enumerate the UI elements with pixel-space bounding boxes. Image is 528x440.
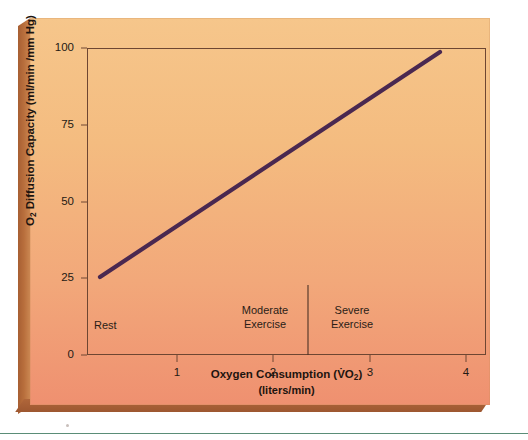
x-axis-title-units: (liters/min): [87, 383, 486, 398]
chart-card: 100 75 50 25 0 1 2 3 4 O2 Diffusion Capa…: [30, 18, 490, 405]
zone-label-moderate-exercise: Moderate Exercise: [242, 304, 288, 332]
y-axis-title: O2 Diffusion Capacity (ml/min /mm Hg): [25, 0, 38, 271]
zone-label-rest: Rest: [94, 319, 117, 333]
zone-label-moderate-line1: Moderate: [242, 304, 288, 318]
y-axis-title-subscript: 2: [29, 212, 38, 217]
zone-label-severe-line1: Severe: [331, 304, 373, 318]
y-axis-title-rest: Diffusion Capacity (ml/min /mm Hg): [24, 15, 36, 212]
y-tick-label-25: 25: [26, 272, 74, 284]
x-axis-title: Oxygen Consumption (V̇O2)(liters/min): [87, 367, 486, 398]
zone-label-moderate-line2: Exercise: [242, 318, 288, 332]
bottom-rule: [0, 433, 528, 434]
figure-root: 100 75 50 25 0 1 2 3 4 O2 Diffusion Capa…: [0, 0, 528, 440]
page-speck: [66, 424, 69, 427]
y-tick-label-0: 0: [26, 349, 74, 361]
x-axis-title-prefix: Oxygen Consumption (V̇O: [211, 368, 354, 380]
x-axis-ticks: [177, 355, 466, 362]
x-axis-title-suffix: ): [358, 368, 362, 380]
zone-label-severe-exercise: Severe Exercise: [331, 304, 373, 332]
y-axis-title-prefix: O: [24, 217, 36, 226]
zone-label-severe-line2: Exercise: [331, 318, 373, 332]
